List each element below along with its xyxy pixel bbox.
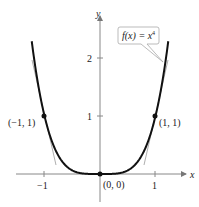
point-label: (−1, 1)	[8, 117, 35, 129]
plot-area: x y −1 1 1 2 (−1, 1) (0, 0) (1, 1) f(x) …	[0, 0, 199, 207]
function-label: f(x) = x4	[122, 30, 155, 42]
y-axis-label: y	[95, 8, 101, 19]
y-tick-label: 1	[87, 111, 92, 122]
point-label: (0, 0)	[103, 179, 125, 191]
point-label: (1, 1)	[159, 117, 181, 129]
x-axis-label: x	[189, 169, 195, 180]
x-tick-label: −1	[37, 180, 48, 191]
point-origin	[98, 172, 103, 177]
x-tick-label: 1	[152, 180, 157, 191]
point-1-1	[153, 114, 158, 119]
point-neg1-1	[42, 114, 47, 119]
y-tick-label: 2	[87, 53, 92, 64]
chart: x y −1 1 1 2 (−1, 1) (0, 0) (1, 1) f(x) …	[0, 0, 199, 207]
